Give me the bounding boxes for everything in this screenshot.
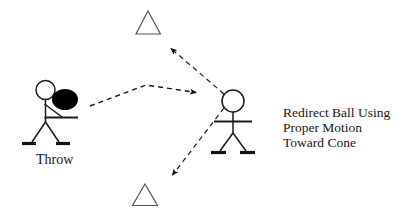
diagram-canvas: Throw Redirect Ball Using Proper Motion …	[0, 0, 405, 219]
receiver-left-leg	[220, 133, 233, 151]
top-cone-icon	[136, 11, 161, 34]
redirect-up-arrow	[171, 49, 224, 95]
instruction-label: Redirect Ball Using Proper Motion Toward…	[283, 105, 390, 150]
receiver-head	[222, 90, 244, 112]
instruction-line-1: Redirect Ball Using	[283, 105, 390, 120]
thrower-figure	[22, 81, 78, 144]
receiver-right-leg	[233, 133, 246, 151]
bottom-cone-icon	[133, 184, 158, 206]
thrower-right-leg	[46, 122, 60, 142]
thrower-left-leg	[32, 122, 46, 142]
redirect-down-arrow	[173, 108, 225, 175]
ball	[52, 89, 78, 110]
receiver-figure	[211, 90, 255, 153]
throw-path-arrow	[90, 85, 196, 106]
thrower-head	[36, 81, 55, 100]
instruction-line-2: Proper Motion	[283, 120, 390, 135]
throw-label: Throw	[36, 152, 73, 167]
instruction-line-3: Toward Cone	[283, 135, 390, 150]
